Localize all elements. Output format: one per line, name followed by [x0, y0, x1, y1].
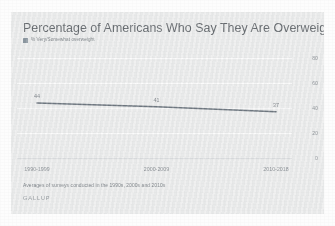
- chart-legend: % Very/Somewhat overweight: [23, 37, 95, 43]
- point-label-1990s: 44: [34, 93, 40, 100]
- gallup-source-logo: GALLUP: [23, 194, 50, 202]
- gallup-chart-card: Percentage of Americans Who Say They Are…: [11, 12, 324, 214]
- chart-footnote: Averages of surveys conducted in the 199…: [23, 182, 165, 189]
- legend-swatch-icon: [23, 38, 28, 43]
- legend-label: % Very/Somewhat overweight: [31, 37, 95, 43]
- screenshot-frame: Percentage of Americans Who Say They Are…: [0, 0, 335, 226]
- x-axis: 1990-1999 2000-2009 2010-2018: [11, 165, 324, 177]
- xtick-1990-1999: 1990-1999: [24, 165, 49, 173]
- xtick-2000-2009: 2000-2009: [144, 165, 169, 173]
- chart-title: Percentage of Americans Who Say They Are…: [23, 21, 324, 35]
- point-label-2010s: 37: [273, 102, 279, 109]
- plot-area: 80 60 40 20 0 44 41 37: [11, 52, 324, 162]
- point-label-2000s: 41: [154, 97, 160, 104]
- xtick-2010-2018: 2010-2018: [263, 165, 288, 173]
